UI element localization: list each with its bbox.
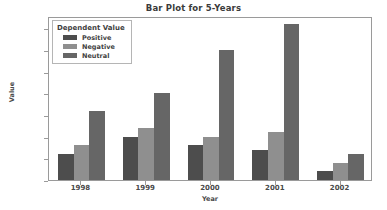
legend-color-swatch bbox=[63, 44, 77, 49]
bar bbox=[348, 154, 364, 180]
x-tick-mark bbox=[275, 181, 276, 185]
bar bbox=[188, 145, 204, 180]
x-tick-mark bbox=[145, 181, 146, 185]
bar bbox=[268, 132, 284, 180]
x-tick-label: 2000 bbox=[175, 184, 245, 192]
y-axis-label: Value bbox=[8, 72, 16, 112]
bar-chart-figure: Bar Plot for 5-Years Value Year 0.02.55.… bbox=[0, 0, 387, 210]
legend-color-swatch bbox=[63, 35, 77, 40]
x-tick-label: 1998 bbox=[45, 184, 115, 192]
legend-item[interactable]: Positive bbox=[57, 34, 125, 42]
bar bbox=[89, 111, 105, 180]
legend-item-label: Positive bbox=[82, 34, 111, 42]
legend-item[interactable]: Neutral bbox=[57, 52, 125, 60]
bar bbox=[74, 145, 90, 180]
x-tick-mark bbox=[210, 181, 211, 185]
bar bbox=[154, 93, 170, 180]
x-tick-label: 1999 bbox=[110, 184, 180, 192]
x-tick-label: 2001 bbox=[240, 184, 310, 192]
legend: Dependent Value PositiveNegativeNeutral bbox=[52, 20, 132, 64]
legend-color-swatch bbox=[63, 53, 77, 58]
bar bbox=[138, 128, 154, 180]
legend-item[interactable]: Negative bbox=[57, 43, 125, 51]
bar bbox=[284, 24, 300, 180]
y-tick-mark bbox=[44, 181, 48, 182]
x-tick-mark bbox=[340, 181, 341, 185]
legend-title: Dependent Value bbox=[57, 24, 125, 32]
legend-item-label: Neutral bbox=[82, 52, 109, 60]
bar bbox=[123, 137, 139, 180]
bar bbox=[333, 163, 349, 180]
x-tick-mark bbox=[80, 181, 81, 185]
bar bbox=[58, 154, 74, 180]
legend-entries: PositiveNegativeNeutral bbox=[57, 34, 125, 60]
bar bbox=[252, 150, 268, 180]
bar bbox=[219, 50, 235, 180]
legend-item-label: Negative bbox=[82, 43, 115, 51]
x-axis-label: Year bbox=[48, 195, 372, 203]
x-tick-label: 2002 bbox=[305, 184, 375, 192]
bar bbox=[203, 137, 219, 180]
bar bbox=[317, 171, 333, 180]
chart-title: Bar Plot for 5-Years bbox=[0, 3, 387, 13]
